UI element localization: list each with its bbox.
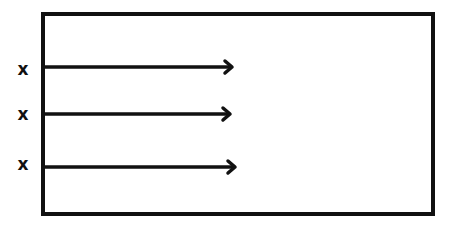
marker-2: x bbox=[18, 106, 29, 123]
marker-3: x bbox=[18, 156, 29, 173]
marker-1: x bbox=[18, 61, 29, 78]
arrow-3 bbox=[45, 161, 235, 173]
arrow-1 bbox=[45, 61, 232, 73]
diagram-canvas bbox=[0, 0, 451, 229]
arrow-2 bbox=[45, 108, 230, 120]
